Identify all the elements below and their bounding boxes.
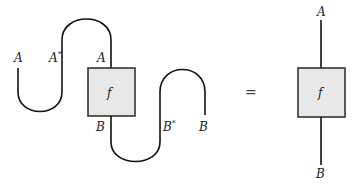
left-f-box — [88, 68, 135, 116]
label-box-top-A: A — [96, 51, 106, 65]
label-input-A: A — [13, 51, 23, 65]
snake-diagram: A A* A f B B* B = A f B — [0, 0, 358, 185]
label-output-B: B — [198, 120, 208, 134]
right-label-bottom-B: B — [315, 167, 325, 181]
label-A-dual: A* — [48, 50, 62, 65]
right-label-top-A: A — [316, 5, 326, 19]
equals-sign: = — [245, 84, 257, 100]
label-box-bottom-B: B — [95, 120, 105, 134]
label-B-dual: B* — [162, 119, 176, 134]
